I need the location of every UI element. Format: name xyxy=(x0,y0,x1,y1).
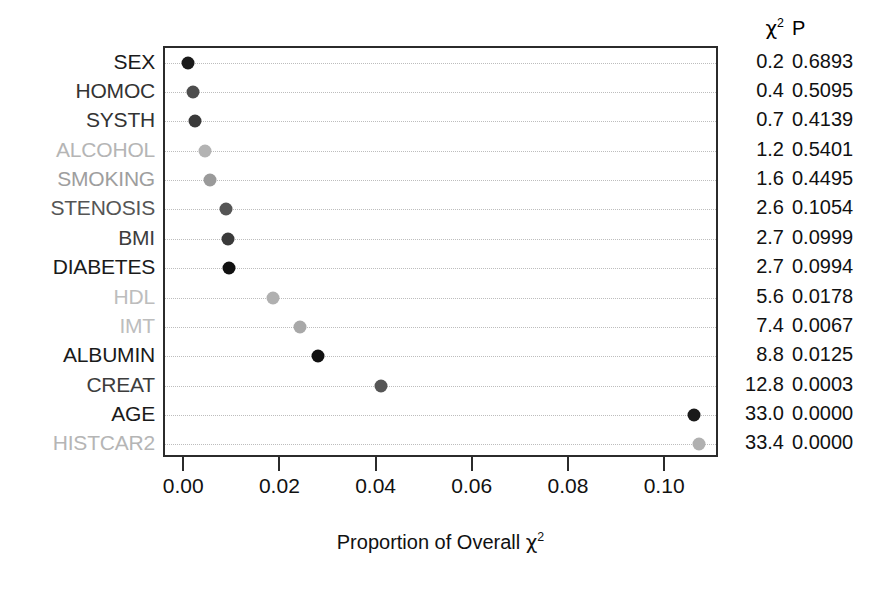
chi2-value: 1.6 xyxy=(722,168,784,188)
category-label: SYSTH xyxy=(86,109,155,130)
x-tick xyxy=(182,457,184,471)
grid-row xyxy=(165,239,716,241)
category-label: ALCOHOL xyxy=(56,138,155,159)
chi2-value: 0.2 xyxy=(722,51,784,71)
category-label: HISTCAR2 xyxy=(53,432,155,453)
chi2-value: 8.8 xyxy=(722,344,784,364)
data-point xyxy=(182,56,195,69)
x-tick xyxy=(663,457,665,471)
x-axis-title-text: Proportion of Overall xyxy=(337,531,526,553)
category-label: AGE xyxy=(111,402,155,423)
chi2-value: 1.2 xyxy=(722,139,784,159)
p-value: 0.0000 xyxy=(792,432,888,452)
x-tick-label: 0.06 xyxy=(451,475,492,496)
grid-row xyxy=(165,386,716,388)
plot-area xyxy=(163,46,718,457)
anova-dot-chart-figure: SEXHOMOCSYSTHALCOHOLSMOKINGSTENOSISBMIDI… xyxy=(0,0,893,605)
x-tick-label: 0.02 xyxy=(259,475,300,496)
grid-row xyxy=(165,444,716,446)
data-point xyxy=(294,320,307,333)
grid-row xyxy=(165,298,716,300)
chi2-value: 33.0 xyxy=(722,403,784,423)
data-point xyxy=(688,408,701,421)
data-point xyxy=(693,438,706,451)
x-tick xyxy=(375,457,377,471)
data-point xyxy=(267,291,280,304)
grid-row xyxy=(165,356,716,358)
chi2-value: 12.8 xyxy=(722,374,784,394)
data-point xyxy=(189,115,202,128)
chi2-value: 7.4 xyxy=(722,315,784,335)
x-tick xyxy=(278,457,280,471)
chi2-value: 33.4 xyxy=(722,432,784,452)
p-value: 0.5095 xyxy=(792,80,888,100)
grid-row xyxy=(165,415,716,417)
chi-symbol-axis: χ xyxy=(526,530,538,554)
data-point xyxy=(223,262,236,275)
x-tick xyxy=(567,457,569,471)
grid-row xyxy=(165,92,716,94)
chi2-value: 2.6 xyxy=(722,197,784,217)
category-label: CREAT xyxy=(86,373,155,394)
p-value: 0.1054 xyxy=(792,197,888,217)
data-point xyxy=(375,379,388,392)
p-column-header: P xyxy=(792,17,805,40)
data-point xyxy=(222,232,235,245)
category-label-column: SEXHOMOCSYSTHALCOHOLSMOKINGSTENOSISBMIDI… xyxy=(0,46,155,457)
x-tick-label: 0.04 xyxy=(355,475,396,496)
data-point xyxy=(204,174,217,187)
p-value: 0.6893 xyxy=(792,51,888,71)
p-value: 0.0003 xyxy=(792,374,888,394)
grid-row xyxy=(165,209,716,211)
category-label: HDL xyxy=(114,285,155,306)
p-value: 0.0000 xyxy=(792,403,888,423)
p-value: 0.0994 xyxy=(792,256,888,276)
p-value: 0.4495 xyxy=(792,168,888,188)
x-axis: 0.000.020.040.060.080.10 xyxy=(163,457,718,477)
data-point xyxy=(312,350,325,363)
grid-row xyxy=(165,63,716,65)
category-label: HOMOC xyxy=(76,80,156,101)
x-tick xyxy=(471,457,473,471)
chi-exponent-axis: 2 xyxy=(537,530,544,544)
x-tick-label: 0.08 xyxy=(548,475,589,496)
data-point xyxy=(198,144,211,157)
grid-row xyxy=(165,121,716,123)
chi2-column-header: χ2 xyxy=(722,16,784,40)
grid-row xyxy=(165,327,716,329)
chi-exponent-header: 2 xyxy=(777,16,784,30)
value-column: 0.20.68930.40.50950.70.41391.20.54011.60… xyxy=(722,46,893,457)
category-label: IMT xyxy=(119,314,155,335)
p-value: 0.0067 xyxy=(792,315,888,335)
category-label: SMOKING xyxy=(57,168,155,189)
grid-row xyxy=(165,180,716,182)
grid-row xyxy=(165,268,716,270)
value-column-header: χ2 P xyxy=(722,8,893,40)
x-axis-title: Proportion of Overall χ2 xyxy=(163,530,718,554)
p-value: 0.4139 xyxy=(792,109,888,129)
chi2-value: 2.7 xyxy=(722,256,784,276)
chi2-value: 5.6 xyxy=(722,286,784,306)
x-tick-label: 0.10 xyxy=(644,475,685,496)
p-value: 0.0999 xyxy=(792,227,888,247)
chi2-value: 0.7 xyxy=(722,109,784,129)
p-value: 0.5401 xyxy=(792,139,888,159)
chi-symbol-header: χ xyxy=(766,16,778,40)
chi2-value: 2.7 xyxy=(722,227,784,247)
category-label: STENOSIS xyxy=(50,197,155,218)
category-label: DIABETES xyxy=(53,256,155,277)
data-point xyxy=(187,86,200,99)
p-value: 0.0125 xyxy=(792,344,888,364)
category-label: BMI xyxy=(118,226,155,247)
x-tick-label: 0.00 xyxy=(163,475,204,496)
data-point xyxy=(220,203,233,216)
category-label: SEX xyxy=(114,50,155,71)
category-label: ALBUMIN xyxy=(63,344,155,365)
chi2-value: 0.4 xyxy=(722,80,784,100)
p-value: 0.0178 xyxy=(792,286,888,306)
grid-row xyxy=(165,151,716,153)
